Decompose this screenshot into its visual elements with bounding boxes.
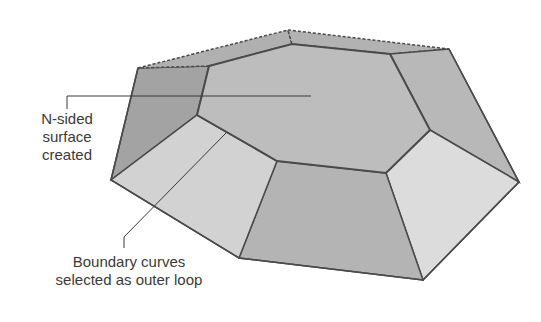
nsided-surface-label: N-sided surface created	[28, 110, 106, 164]
nsided-label-line-1: N-sided	[28, 110, 106, 128]
boundary-label-line-2: selected as outer loop	[34, 271, 224, 289]
boundary-label-line-1: Boundary curves	[34, 253, 224, 271]
boundary-curves-label: Boundary curves selected as outer loop	[34, 253, 224, 289]
nsided-label-line-3: created	[28, 146, 106, 164]
nsided-label-line-2: surface	[28, 128, 106, 146]
